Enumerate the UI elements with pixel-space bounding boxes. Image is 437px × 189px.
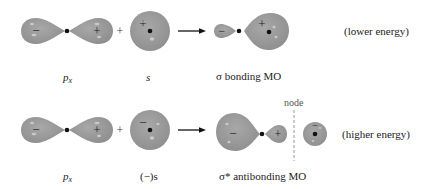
- plus-sign: +: [93, 122, 100, 137]
- nucleus-dot: [148, 128, 153, 133]
- minus-sign: −: [32, 23, 39, 38]
- px-orbital-row1: − +: [21, 18, 113, 44]
- sigma-star-antibonding-label: σ* antibonding MO: [219, 170, 306, 182]
- lower-energy-note: (lower energy): [344, 25, 409, 37]
- sigma-bonding-mo: − +: [214, 13, 289, 50]
- px-right-lobe: [69, 117, 113, 143]
- nucleus-dot: [313, 132, 318, 137]
- px-label-row1: px: [63, 71, 72, 85]
- plus-sign: +: [275, 127, 282, 141]
- nucleus-dot: [148, 29, 153, 34]
- px-left-lobe: [21, 117, 65, 143]
- plus-sign: +: [258, 16, 265, 31]
- arrow-icon: [178, 127, 206, 133]
- nucleus-dot: [260, 132, 265, 137]
- plus-sign: +: [139, 16, 146, 31]
- minus-sign: −: [219, 24, 226, 38]
- large-lobe: [244, 13, 289, 50]
- px-left-lobe: [21, 18, 65, 44]
- plus-sign: +: [93, 23, 100, 38]
- s-label-row1: s: [146, 71, 150, 83]
- nucleus-dot: [237, 29, 242, 34]
- px-label-row2: px: [63, 170, 72, 184]
- nucleus-dot: [65, 29, 70, 34]
- large-lobe: [216, 113, 260, 151]
- nucleus-dot: [267, 30, 272, 35]
- nucleus-dot: [65, 128, 70, 133]
- px-orbital-row2: − +: [21, 117, 113, 143]
- node-label: node: [284, 97, 303, 108]
- s-orbital-row2: −: [130, 110, 170, 150]
- minus-sign: −: [312, 120, 318, 131]
- minus-sign: −: [139, 115, 146, 130]
- plus-operator: +: [117, 24, 124, 38]
- sigma-star-antibonding-mo: − + −: [216, 110, 327, 161]
- s-orbital-row1: +: [130, 11, 170, 51]
- minus-s-label: (−)s: [140, 170, 158, 182]
- plus-operator: +: [117, 123, 124, 137]
- arrow-icon: [178, 28, 206, 34]
- minus-sign: −: [229, 126, 236, 141]
- px-right-lobe: [69, 18, 113, 44]
- higher-energy-note: (higher energy): [342, 128, 410, 140]
- minus-sign: −: [32, 122, 39, 137]
- sigma-bonding-label: σ bonding MO: [216, 70, 281, 82]
